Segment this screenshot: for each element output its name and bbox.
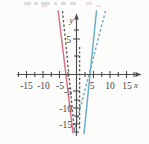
y-label-plus5: 5 <box>66 35 71 45</box>
x-label-plus10: 10 <box>105 81 115 91</box>
x-axis-name-label: x <box>133 80 138 90</box>
x-label-minus15: -15 <box>20 81 33 91</box>
y-axis-name-label: y <box>69 15 74 25</box>
x-axis-arrowhead <box>136 72 142 77</box>
y-label-minus15: -15 <box>59 120 72 130</box>
series-red-solid-line <box>58 11 73 133</box>
y-label-minus10: -10 <box>59 104 72 114</box>
y-label-minus5: -5 <box>64 87 72 97</box>
graph-svg: -15 -10 -5 5 10 15 5 -5 -10 -15 y x <box>0 0 149 144</box>
series-blue-solid-line <box>84 11 97 134</box>
x-label-minus5: -5 <box>56 81 64 91</box>
y-axis-arrowhead <box>74 14 79 20</box>
x-label-plus5: 5 <box>90 81 95 91</box>
figure-canvas: -15 -10 -5 5 10 15 5 -5 -10 -15 y x <box>0 0 149 144</box>
x-label-minus10: -10 <box>37 81 50 91</box>
x-label-plus15: 15 <box>122 81 132 91</box>
plot-area: -15 -10 -5 5 10 15 5 -5 -10 -15 y x <box>0 0 149 144</box>
